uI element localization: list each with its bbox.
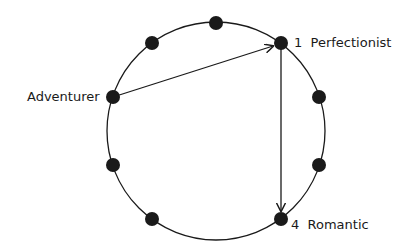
node-romantic	[274, 212, 288, 226]
node-upper-left	[145, 36, 159, 50]
label-romantic: 4 Romantic	[291, 218, 369, 232]
node-perfectionist	[274, 36, 288, 50]
arrow-adventurer-to-perfectionist	[113, 46, 273, 97]
label-adventurer: Adventurer 7	[27, 90, 116, 104]
node-top	[209, 16, 223, 30]
node-right-upper	[312, 90, 326, 104]
label-perfectionist: 1 Perfectionist	[294, 36, 391, 50]
outer-circle	[107, 22, 325, 240]
node-bottom-left	[145, 212, 159, 226]
node-left-lower	[106, 158, 120, 172]
node-right-lower	[312, 158, 326, 172]
